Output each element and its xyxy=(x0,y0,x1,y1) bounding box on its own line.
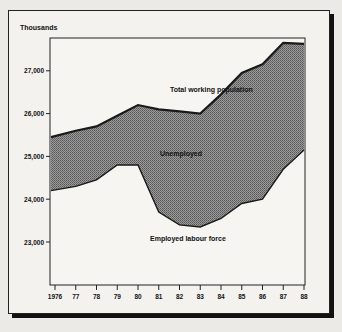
y-tick-label: 25,000 xyxy=(24,153,44,161)
y-axis-unit-label: Thousands xyxy=(20,24,57,31)
y-tick-label: 23,000 xyxy=(24,239,44,247)
x-tick-label: 79 xyxy=(114,293,122,300)
x-tick-label: 85 xyxy=(238,293,246,300)
employed-labour-force-label: Employed labour force xyxy=(150,235,226,243)
x-tick-label: 1976 xyxy=(48,293,63,300)
x-tick-label: 80 xyxy=(134,293,142,300)
y-tick-label: 27,000 xyxy=(24,67,44,75)
total-working-population-label: Total working population xyxy=(170,86,253,94)
x-tick-label: 82 xyxy=(176,293,184,300)
x-tick-label: 88 xyxy=(300,293,308,300)
x-tick-label: 83 xyxy=(197,293,205,300)
x-tick-label: 78 xyxy=(93,293,101,300)
x-tick-label: 77 xyxy=(72,293,80,300)
y-tick-label: 24,000 xyxy=(24,196,44,204)
x-tick-label: 81 xyxy=(155,293,163,300)
y-tick-label: 26,000 xyxy=(24,110,44,118)
x-tick-label: 86 xyxy=(259,293,267,300)
x-tick-label: 84 xyxy=(217,293,225,300)
area-chart: 27,00026,00025,00024,00023,0001976777879… xyxy=(0,0,342,332)
unemployed-label: Unemployed xyxy=(160,150,202,158)
x-tick-label: 87 xyxy=(280,293,288,300)
